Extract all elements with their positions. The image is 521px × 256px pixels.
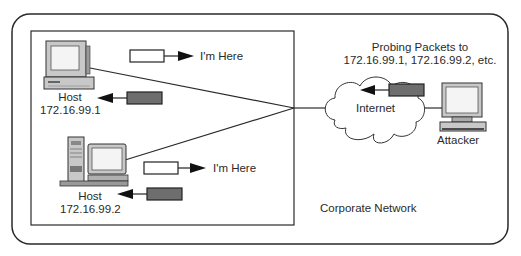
corporate-network-label: Corporate Network bbox=[320, 202, 417, 215]
host1-computer-icon bbox=[44, 41, 94, 89]
host1-label: Host 172.16.99.1 bbox=[40, 91, 100, 117]
host2-label: Host 172.16.99.2 bbox=[60, 190, 120, 216]
probe-packet-host2 bbox=[117, 188, 182, 200]
reply-packet-host2 bbox=[144, 162, 206, 174]
host2-computer-icon bbox=[60, 137, 128, 186]
internet-label: Internet bbox=[356, 102, 395, 115]
probe-label: Probing Packets to 172.16.99.1, 172.16.9… bbox=[340, 41, 500, 67]
reply-packet-host1 bbox=[130, 50, 194, 62]
probe-packet-host1 bbox=[97, 92, 162, 104]
host1-ip: 172.16.99.1 bbox=[40, 104, 100, 117]
attacker-label: Attacker bbox=[437, 134, 479, 147]
attacker-computer-icon bbox=[440, 83, 486, 131]
host2-reply-label: I'm Here bbox=[213, 162, 256, 175]
host2-name: Host bbox=[60, 190, 120, 203]
network-diagram bbox=[0, 0, 521, 256]
probe-label-line1: Probing Packets to bbox=[340, 41, 500, 54]
link-host2 bbox=[125, 108, 294, 160]
host1-name: Host bbox=[40, 91, 100, 104]
link-host1 bbox=[90, 68, 294, 108]
probe-label-line2: 172.16.99.1, 172.16.99.2, etc. bbox=[340, 54, 500, 67]
host2-ip: 172.16.99.2 bbox=[60, 203, 120, 216]
host1-reply-label: I'm Here bbox=[200, 50, 243, 63]
